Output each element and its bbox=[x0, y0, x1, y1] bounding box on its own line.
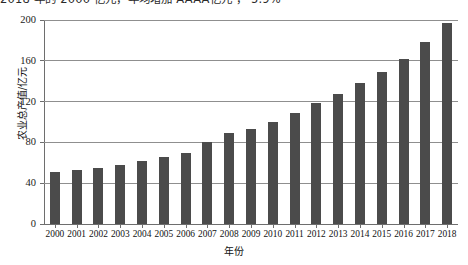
bar-2000 bbox=[50, 172, 60, 224]
bar-2010 bbox=[268, 122, 278, 224]
bars-group bbox=[44, 20, 458, 224]
bar-2005 bbox=[159, 157, 169, 224]
bar-slot bbox=[153, 20, 175, 224]
bar-slot bbox=[131, 20, 153, 224]
bar-slot bbox=[109, 20, 131, 224]
x-tick-mark-2012 bbox=[316, 225, 317, 229]
y-axis-title-wrap: 农业总产值/亿元 bbox=[0, 0, 44, 244]
bar-slot bbox=[66, 20, 88, 224]
bar-slot bbox=[197, 20, 219, 224]
bar-2008 bbox=[224, 133, 234, 224]
x-tick-mark-2006 bbox=[186, 225, 187, 229]
x-tick-mark-2007 bbox=[207, 225, 208, 229]
bar-slot bbox=[327, 20, 349, 224]
x-tick-mark-2014 bbox=[360, 225, 361, 229]
x-tick-mark-2009 bbox=[251, 225, 252, 229]
x-tick-mark-2000 bbox=[55, 225, 56, 229]
bar-slot bbox=[371, 20, 393, 224]
x-tick-mark-2001 bbox=[77, 225, 78, 229]
bar-2004 bbox=[137, 161, 147, 224]
bar-2013 bbox=[333, 94, 343, 224]
x-tick-mark-2013 bbox=[338, 225, 339, 229]
bar-slot bbox=[393, 20, 415, 224]
bar-2017 bbox=[420, 42, 430, 224]
x-tick-mark-2002 bbox=[98, 225, 99, 229]
bar-slot bbox=[284, 20, 306, 224]
x-tick-mark-2017 bbox=[425, 225, 426, 229]
x-tick-mark-2015 bbox=[382, 225, 383, 229]
bar-2009 bbox=[246, 129, 256, 224]
bar-2016 bbox=[399, 59, 409, 224]
bar-2006 bbox=[181, 153, 191, 224]
y-axis-title: 农业总产值/亿元 bbox=[14, 49, 29, 159]
bar-2001 bbox=[72, 170, 82, 224]
bar-2002 bbox=[93, 168, 103, 224]
x-tick-mark-2018 bbox=[447, 225, 448, 229]
x-tick-mark-2016 bbox=[404, 225, 405, 229]
x-tick-mark-2005 bbox=[164, 225, 165, 229]
bar-slot bbox=[44, 20, 66, 224]
bar-slot bbox=[175, 20, 197, 224]
bar-2003 bbox=[115, 165, 125, 224]
bar-2014 bbox=[355, 83, 365, 224]
bar-slot bbox=[305, 20, 327, 224]
x-tick-mark-2008 bbox=[229, 225, 230, 229]
x-tick-mark-2004 bbox=[142, 225, 143, 229]
x-tick-mark-2003 bbox=[120, 225, 121, 229]
bar-2011 bbox=[290, 113, 300, 224]
bar-slot bbox=[436, 20, 458, 224]
x-axis-title: 年份 bbox=[0, 243, 468, 258]
bar-2007 bbox=[202, 142, 212, 224]
bar-2012 bbox=[311, 103, 321, 224]
x-tick-label-2018: 2018 bbox=[427, 229, 467, 240]
bar-chart-figure: 04080120160200 农业总产值/亿元 2000200120022003… bbox=[0, 0, 468, 265]
bar-slot bbox=[218, 20, 240, 224]
bar-slot bbox=[88, 20, 110, 224]
bar-slot bbox=[262, 20, 284, 224]
bar-slot bbox=[240, 20, 262, 224]
bar-slot bbox=[414, 20, 436, 224]
x-tick-mark-2011 bbox=[295, 225, 296, 229]
bar-slot bbox=[349, 20, 371, 224]
x-tick-mark-2010 bbox=[273, 225, 274, 229]
bar-2015 bbox=[377, 72, 387, 224]
bar-2018 bbox=[442, 23, 452, 224]
